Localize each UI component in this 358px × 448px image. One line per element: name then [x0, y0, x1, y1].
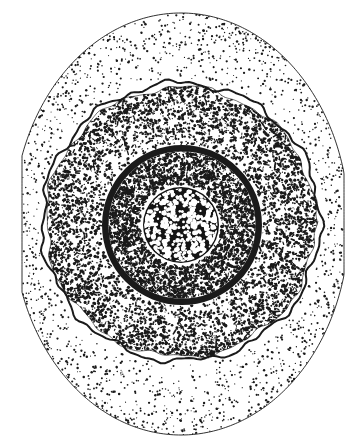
- cell-cross-section-illustration: [0, 0, 358, 448]
- figure-container: Stippled cross-section of a spherical ce…: [0, 0, 358, 448]
